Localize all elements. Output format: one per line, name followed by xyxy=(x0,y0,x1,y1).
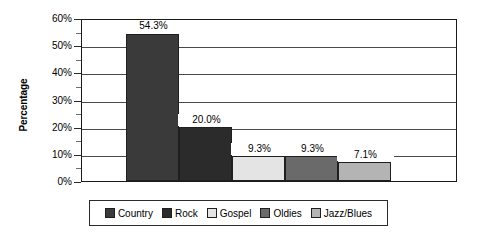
bar-oldies xyxy=(285,156,338,181)
y-axis-tick-label: 10% xyxy=(32,149,72,160)
bar-rock xyxy=(179,127,232,181)
legend-swatch-icon xyxy=(162,208,172,218)
bar-value-label: 20.0% xyxy=(178,114,235,126)
y-axis-tick-major xyxy=(74,73,81,74)
y-axis-tick-label: 50% xyxy=(32,40,72,51)
plot-area xyxy=(81,19,457,182)
y-axis-tick-label: 40% xyxy=(32,67,72,78)
bar-country xyxy=(126,34,179,182)
y-axis-tick-major xyxy=(74,46,81,47)
legend-swatch-icon xyxy=(207,208,217,218)
legend-label: Jazz/Blues xyxy=(324,208,372,219)
y-axis-tick-label: 30% xyxy=(32,95,72,106)
legend-swatch-icon xyxy=(311,208,321,218)
bar-value-label: 9.3% xyxy=(231,143,288,155)
y-axis-tick-major xyxy=(74,128,81,129)
legend-label: Country xyxy=(118,208,153,219)
legend-item-jazz-blues[interactable]: Jazz/Blues xyxy=(311,208,372,219)
bar-jazz-blues xyxy=(338,162,391,181)
y-axis-tick-label: 0% xyxy=(32,176,72,187)
bar-gospel xyxy=(232,156,285,181)
legend-item-oldies[interactable]: Oldies xyxy=(260,208,301,219)
legend: CountryRockGospelOldiesJazz/Blues xyxy=(89,200,388,226)
y-axis-tick-major xyxy=(74,155,81,156)
bar-value-label: 9.3% xyxy=(284,143,341,155)
legend-item-gospel[interactable]: Gospel xyxy=(207,208,252,219)
legend-item-rock[interactable]: Rock xyxy=(162,208,198,219)
legend-swatch-icon xyxy=(260,208,270,218)
bar-value-label: 7.1% xyxy=(337,149,394,161)
y-axis-tick-major xyxy=(74,101,81,102)
y-axis-tick-label: 20% xyxy=(32,122,72,133)
bar-chart: Percentage 60%50%40%30%20%10%0% 54.3%20.… xyxy=(0,0,479,238)
y-axis-tick-major xyxy=(74,19,81,20)
legend-label: Rock xyxy=(175,208,198,219)
legend-item-country[interactable]: Country xyxy=(105,208,153,219)
legend-label: Gospel xyxy=(220,208,252,219)
y-axis-tick-label: 60% xyxy=(32,13,72,24)
legend-swatch-icon xyxy=(105,208,115,218)
y-axis-tick-major xyxy=(74,182,81,183)
legend-label: Oldies xyxy=(273,208,301,219)
y-axis-title: Percentage xyxy=(18,60,32,150)
bar-value-label: 54.3% xyxy=(125,20,182,32)
